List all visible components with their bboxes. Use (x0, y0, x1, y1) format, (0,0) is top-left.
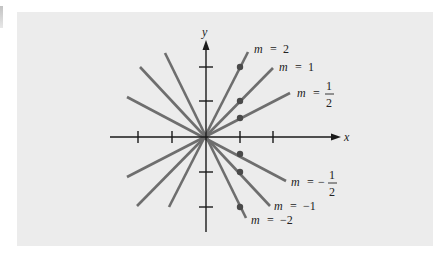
label-m-1: m = 1 (279, 60, 314, 74)
svg-text:1: 1 (308, 60, 314, 74)
svg-text:=: = (290, 199, 297, 213)
label-m-half: m = 1 2 (297, 79, 334, 110)
svg-text:m: m (251, 213, 260, 227)
svg-text:=: = (307, 175, 314, 189)
svg-text:m: m (254, 42, 263, 56)
slope-lines (127, 52, 290, 218)
svg-text:−2: −2 (280, 213, 293, 227)
svg-text:1: 1 (329, 168, 335, 182)
svg-text:m: m (279, 60, 288, 74)
svg-text:2: 2 (329, 185, 335, 199)
x-axis-label: x (343, 130, 350, 144)
svg-text:1: 1 (326, 79, 332, 93)
point-m-1 (237, 98, 243, 104)
y-axis-arrow-icon (203, 40, 210, 50)
svg-text:−: − (318, 175, 325, 189)
label-m-neg-1: m = −1 (274, 199, 316, 213)
x-axis: x (110, 130, 350, 144)
point-m-2 (237, 64, 243, 70)
point-m-half (237, 115, 243, 121)
point-m-neg-half (237, 151, 243, 157)
svg-text:m: m (291, 175, 300, 189)
point-m-neg-2 (237, 204, 243, 210)
y-axis-label: y (201, 25, 208, 39)
point-m-neg-1 (237, 169, 243, 175)
line-slope-half (127, 93, 290, 177)
svg-text:=: = (267, 213, 274, 227)
label-m-neg-half: m = − 1 2 (291, 168, 337, 199)
svg-text:m: m (297, 86, 306, 100)
svg-text:=: = (313, 86, 320, 100)
label-m-2: m = 2 (254, 42, 289, 56)
svg-text:=: = (295, 60, 302, 74)
x-axis-arrow-icon (331, 134, 341, 141)
svg-text:−1: −1 (303, 199, 316, 213)
svg-text:=: = (270, 42, 277, 56)
label-m-neg-2: m = −2 (251, 213, 293, 227)
line-slope-2 (169, 52, 248, 207)
svg-text:2: 2 (283, 42, 289, 56)
slope-diagram: x y m = (0, 0, 448, 260)
svg-text:2: 2 (326, 96, 332, 110)
svg-text:m: m (274, 199, 283, 213)
figure: x y m = (0, 0, 448, 260)
